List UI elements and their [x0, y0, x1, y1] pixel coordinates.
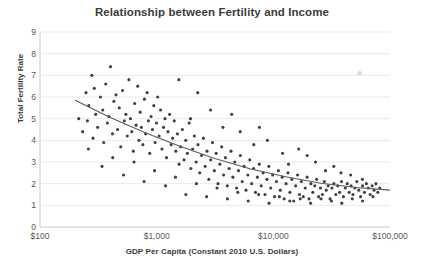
y-tick-label-7: 7: [10, 70, 36, 80]
trend-line-path: [75, 100, 390, 190]
x-axis-title: GDP Per Capita (Constant 2010 U.S. Dolla…: [0, 247, 424, 256]
y-tick-label-2: 2: [10, 179, 36, 189]
chart-title: Relationship between Fertility and Incom…: [0, 6, 424, 18]
x-tick-label-3: $100,000: [372, 231, 407, 241]
y-tick-label-6: 6: [10, 92, 36, 102]
x-axis-tick-labels: $100$1,000$10,000$100,000: [0, 231, 424, 245]
y-tick-label-9: 9: [10, 27, 36, 37]
fertility-income-scatter-chart: Relationship between Fertility and Incom…: [0, 0, 424, 269]
trend-line: [40, 32, 390, 227]
x-tick-label-1: $1,000: [144, 231, 170, 241]
y-tick-label-4: 4: [10, 135, 36, 145]
plot-area: [40, 32, 390, 227]
x-tick-label-2: $10,000: [258, 231, 289, 241]
x-tick-label-0: $100: [31, 231, 50, 241]
y-axis-tick-labels: 0123456789: [8, 32, 36, 227]
y-tick-label-1: 1: [10, 200, 36, 210]
y-tick-label-3: 3: [10, 157, 36, 167]
y-tick-label-8: 8: [10, 49, 36, 59]
y-tick-label-5: 5: [10, 114, 36, 124]
